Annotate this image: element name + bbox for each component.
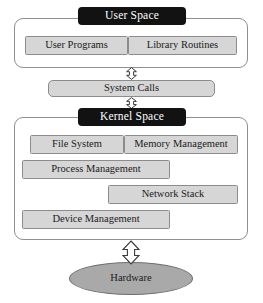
hardware-ellipse: Hardware bbox=[69, 262, 193, 295]
memory-management-box: Memory Management bbox=[124, 135, 238, 154]
file-system-label: File System bbox=[52, 139, 102, 150]
user-programs-box: User Programs bbox=[25, 36, 128, 55]
library-routines-label: Library Routines bbox=[147, 40, 218, 51]
kernel-space-banner-label: Kernel Space bbox=[100, 111, 164, 123]
network-stack-label: Network Stack bbox=[142, 189, 205, 200]
device-management-label: Device Management bbox=[52, 214, 139, 225]
file-system-box: File System bbox=[30, 135, 124, 154]
kernel-space-to-hardware-arrow bbox=[120, 240, 142, 265]
system-calls-box: System Calls bbox=[48, 80, 215, 97]
device-management-box: Device Management bbox=[22, 210, 170, 229]
architecture-diagram: User Space User Programs Library Routine… bbox=[0, 0, 263, 303]
network-stack-box: Network Stack bbox=[108, 185, 238, 204]
library-routines-box: Library Routines bbox=[128, 36, 237, 55]
user-programs-label: User Programs bbox=[45, 40, 108, 51]
kernel-space-banner: Kernel Space bbox=[78, 108, 186, 126]
memory-management-label: Memory Management bbox=[134, 139, 228, 150]
process-management-box: Process Management bbox=[22, 160, 170, 179]
user-space-banner: User Space bbox=[78, 7, 186, 25]
hardware-label: Hardware bbox=[110, 273, 151, 284]
user-space-banner-label: User Space bbox=[105, 10, 159, 22]
system-calls-label: System Calls bbox=[104, 83, 159, 94]
process-management-label: Process Management bbox=[51, 164, 141, 175]
user-space-to-system-calls-arrow bbox=[124, 67, 139, 80]
